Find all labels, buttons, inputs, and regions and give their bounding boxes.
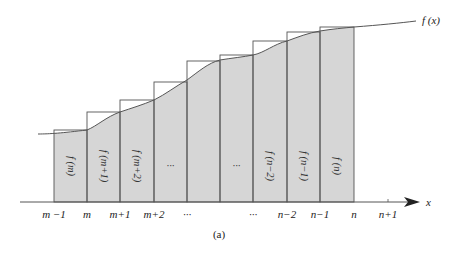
- x-tick-label: n−1: [311, 208, 329, 220]
- riemann-sum-diagram: m −1mm+1m+2······n−2n−1nn+1 f (m)f (m+1)…: [0, 0, 453, 257]
- bar-label: f (m+1): [98, 150, 110, 183]
- x-tick-label: m+1: [110, 208, 131, 220]
- curve-label: f (x): [422, 14, 440, 27]
- x-tick-label: m+2: [144, 208, 165, 220]
- bar-label: f (n−1): [298, 151, 310, 182]
- x-tick-label: m −1: [42, 208, 66, 220]
- x-tick-label: n: [351, 208, 357, 220]
- bar-label: ···: [167, 160, 175, 171]
- bar-label: ···: [233, 160, 241, 171]
- x-tick-label: m: [83, 208, 91, 220]
- x-tick-label: ···: [249, 208, 258, 220]
- bar-label: f (m): [65, 156, 77, 177]
- x-tick-label: n+1: [379, 208, 397, 220]
- bar-label: f (n−2): [264, 151, 276, 182]
- figure-caption: (a): [213, 228, 226, 241]
- x-tick-label: ···: [183, 208, 192, 220]
- axis-label-x: x: [425, 196, 431, 208]
- x-tick-labels: m −1mm+1m+2······n−2n−1nn+1: [42, 208, 397, 220]
- x-tick-label: n−2: [278, 208, 297, 220]
- bar-label: f (n): [331, 157, 343, 175]
- bar-label: f (m+2): [131, 150, 143, 183]
